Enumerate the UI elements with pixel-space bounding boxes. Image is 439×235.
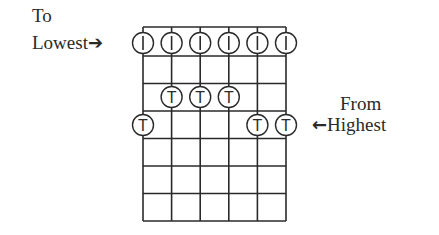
fretted-note-marker-letter: T — [281, 117, 291, 134]
fretted-note-marker-letter: T — [253, 117, 263, 134]
fretted-note-marker-letter: T — [167, 89, 177, 106]
fretted-note-marker-letter: T — [138, 117, 148, 134]
fretboard-diagram: TTTTTT — [0, 0, 439, 235]
fretted-note-marker-letter: T — [224, 89, 234, 106]
fretted-note-marker-letter: T — [195, 89, 205, 106]
